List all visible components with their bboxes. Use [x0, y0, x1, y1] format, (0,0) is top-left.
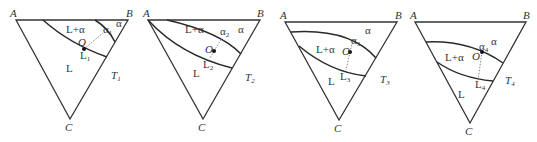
- region-liquid-label: L: [458, 88, 465, 100]
- region-liquid-label: L: [193, 67, 200, 79]
- panel-t4: A B C L+α α L O α4 L4 T4: [409, 9, 530, 137]
- region-alpha-label: α: [365, 24, 371, 36]
- vertex-a-label: A: [279, 9, 287, 21]
- alpha-end-label: α4: [479, 40, 489, 54]
- vertex-a-label: A: [142, 7, 150, 19]
- panel-t3: A B C L+α α L O α3 L3 T3: [279, 9, 402, 134]
- panel-t2: A B C L+α α L O α2 L2 T2: [142, 7, 264, 133]
- panel-t1: A B C L+α α L O α1 L1 T1: [9, 7, 133, 133]
- alpha-end-label: α3: [351, 34, 361, 48]
- solidus-curve: [167, 20, 241, 54]
- figure-svg: A B C L+α α L O α1 L1 T1 A B C L+α α L O…: [0, 0, 537, 142]
- vertex-c-label: C: [65, 121, 73, 133]
- tie-line: [84, 33, 103, 49]
- triangle-outline: [415, 22, 526, 123]
- liquid-end-label: L2: [203, 58, 214, 72]
- region-two-phase-label: L+α: [445, 51, 464, 63]
- vertex-b-label: B: [126, 7, 133, 19]
- temperature-label: T4: [505, 74, 515, 88]
- tie-line: [214, 38, 222, 51]
- region-alpha-label: α: [116, 17, 122, 29]
- ternary-isothermal-sections-figure: A B C L+α α L O α1 L1 T1 A B C L+α α L O…: [0, 0, 537, 142]
- temperature-label: T3: [380, 73, 390, 87]
- region-liquid-label: L: [66, 62, 73, 74]
- vertex-c-label: C: [465, 125, 473, 137]
- region-two-phase-label: L+α: [66, 23, 85, 35]
- alpha-end-label: α2: [220, 25, 230, 39]
- point-o-label: O: [342, 45, 350, 57]
- vertex-a-label: A: [409, 9, 417, 21]
- point-o-label: O: [205, 43, 213, 55]
- region-alpha-label: α: [491, 35, 497, 47]
- vertex-b-label: B: [257, 7, 264, 19]
- vertex-b-label: B: [395, 9, 402, 21]
- temperature-label: T2: [245, 71, 255, 85]
- vertex-c-label: C: [198, 121, 206, 133]
- region-two-phase-label: L+α: [316, 43, 335, 55]
- point-o-label: O: [78, 36, 86, 48]
- region-liquid-label: L: [328, 75, 335, 87]
- region-two-phase-label: L+α: [185, 23, 204, 35]
- vertex-c-label: C: [334, 122, 342, 134]
- liquid-end-label: L1: [80, 49, 91, 63]
- region-alpha-label: α: [238, 23, 244, 35]
- vertex-a-label: A: [9, 7, 17, 19]
- temperature-label: T1: [111, 69, 121, 83]
- vertex-b-label: B: [523, 9, 530, 21]
- alpha-end-label: α1: [103, 23, 113, 37]
